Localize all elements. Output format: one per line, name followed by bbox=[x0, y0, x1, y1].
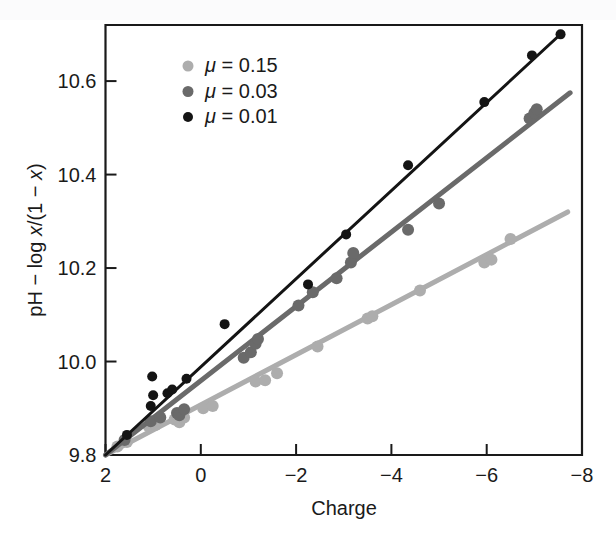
data-point bbox=[147, 371, 157, 381]
chart-plot: 20−2−4−6−8 9.810.010.210.410.6 μ = 0.15μ… bbox=[0, 0, 616, 538]
data-point bbox=[479, 97, 489, 107]
y-axis-title-text: pH − log x/(1 − x) bbox=[24, 163, 46, 316]
data-point bbox=[331, 272, 343, 284]
data-series bbox=[106, 29, 566, 455]
y-tick-label: 9.8 bbox=[69, 444, 97, 466]
data-point bbox=[403, 160, 413, 170]
legend-label: μ = 0.01 bbox=[204, 105, 278, 127]
x-axis-title: Charge bbox=[311, 497, 377, 519]
data-point bbox=[271, 367, 283, 379]
legend-label: μ = 0.03 bbox=[204, 80, 278, 102]
data-point bbox=[505, 233, 517, 245]
data-point bbox=[154, 412, 166, 424]
x-tick-label: −6 bbox=[475, 464, 498, 486]
data-point bbox=[402, 224, 414, 236]
x-tick-label: 0 bbox=[195, 464, 206, 486]
y-axis-title: pH − log x/(1 − x) bbox=[24, 163, 46, 316]
chart-legend: μ = 0.15μ = 0.03μ = 0.01 bbox=[183, 54, 278, 127]
data-point bbox=[122, 430, 132, 440]
data-point bbox=[182, 374, 192, 384]
data-point bbox=[167, 385, 177, 395]
data-point bbox=[148, 390, 158, 400]
x-axis-ticks bbox=[106, 444, 583, 455]
data-point bbox=[303, 279, 313, 289]
data-point bbox=[178, 403, 190, 415]
data-series bbox=[106, 93, 571, 455]
legend-marker bbox=[183, 61, 194, 72]
legend-label: μ = 0.15 bbox=[204, 54, 278, 76]
data-point bbox=[259, 374, 271, 386]
data-point bbox=[556, 29, 566, 39]
y-tick-label: 10.6 bbox=[58, 70, 97, 92]
legend-marker bbox=[183, 86, 194, 97]
y-axis-ticks bbox=[106, 81, 117, 361]
x-axis-tick-labels: 20−2−4−6−8 bbox=[100, 464, 593, 486]
x-tick-label: −2 bbox=[285, 464, 308, 486]
data-point bbox=[366, 310, 378, 322]
data-point bbox=[292, 299, 304, 311]
data-point bbox=[220, 319, 230, 329]
data-point bbox=[531, 103, 543, 115]
data-point bbox=[347, 247, 359, 259]
x-tick-label: −8 bbox=[571, 464, 594, 486]
data-point bbox=[341, 229, 351, 239]
y-tick-label: 10.2 bbox=[58, 257, 97, 279]
figure-container: 20−2−4−6−8 9.810.010.210.410.6 μ = 0.15μ… bbox=[0, 0, 616, 538]
data-point bbox=[312, 341, 324, 353]
legend-marker bbox=[183, 112, 193, 122]
y-tick-label: 10.0 bbox=[58, 351, 97, 373]
y-tick-label: 10.4 bbox=[58, 164, 97, 186]
x-tick-label: −4 bbox=[380, 464, 403, 486]
data-point bbox=[433, 198, 445, 210]
y-axis-tick-labels: 9.810.010.210.410.6 bbox=[58, 70, 97, 466]
data-point bbox=[252, 333, 264, 345]
data-point bbox=[414, 284, 426, 296]
data-point bbox=[485, 254, 497, 266]
data-series-group bbox=[106, 29, 571, 455]
data-point bbox=[527, 50, 537, 60]
data-point bbox=[207, 400, 219, 412]
data-point bbox=[146, 401, 156, 411]
x-tick-label: 2 bbox=[100, 464, 111, 486]
